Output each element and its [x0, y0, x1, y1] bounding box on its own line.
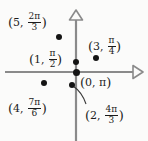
label-theta-fraction: 4π3 — [105, 105, 119, 125]
polar-axis-arrowhead-icon — [133, 66, 143, 79]
label-theta-fraction: π2 — [49, 49, 57, 69]
fraction-numerator: 2π — [28, 12, 42, 23]
point-dot-4-7pi-6 — [41, 80, 47, 86]
fraction-numerator: π — [108, 36, 116, 47]
label-close-paren: ) — [57, 52, 62, 67]
label-theta-fraction: 7π6 — [28, 98, 42, 118]
label-close-paren: ) — [119, 108, 124, 123]
point-dot-1-pi-2 — [73, 59, 79, 65]
point-label-1-pi-2: (1, π2) — [29, 49, 62, 69]
fraction-numerator: 4π — [105, 105, 119, 116]
polar-points-figure: (5, 2π3) (3, π4) (1, π2) (0, π) (4, 7π6)… — [0, 0, 148, 141]
fraction-denominator: 4 — [108, 47, 116, 57]
label-theta-fraction: π4 — [108, 36, 116, 56]
label-close-paren: ) — [116, 39, 121, 54]
label-theta-fraction: 2π3 — [28, 12, 42, 32]
label-close-paren: ) — [42, 15, 47, 30]
fraction-numerator: π — [49, 49, 57, 60]
point-dot-0-pi — [73, 69, 80, 76]
label-comma: , — [97, 109, 104, 122]
point-label-3-pi-4: (3, π4) — [88, 36, 121, 56]
point-label-2-4pi-3: (2, 4π3) — [85, 105, 124, 125]
fraction-denominator: 6 — [28, 109, 42, 119]
fraction-numerator: 7π — [28, 98, 42, 109]
point-dot-5-2pi-3 — [56, 34, 62, 40]
label-close-paren: ) — [106, 75, 111, 90]
label-comma: , — [20, 16, 27, 29]
fraction-denominator: 3 — [28, 23, 42, 33]
point-dot-2-4pi-3 — [69, 82, 75, 88]
vertical-axis-arrowhead-icon — [70, 10, 83, 20]
label-comma: , — [20, 102, 27, 115]
point-label-0-pi: (0, π) — [80, 76, 111, 89]
label-comma: , — [41, 53, 48, 66]
label-comma: , — [100, 40, 107, 53]
fraction-denominator: 3 — [105, 116, 119, 126]
point-label-4-7pi-6: (4, 7π6) — [8, 98, 47, 118]
fraction-denominator: 2 — [49, 60, 57, 70]
label-close-paren: ) — [42, 101, 47, 116]
point-label-5-2pi-3: (5, 2π3) — [8, 12, 47, 32]
